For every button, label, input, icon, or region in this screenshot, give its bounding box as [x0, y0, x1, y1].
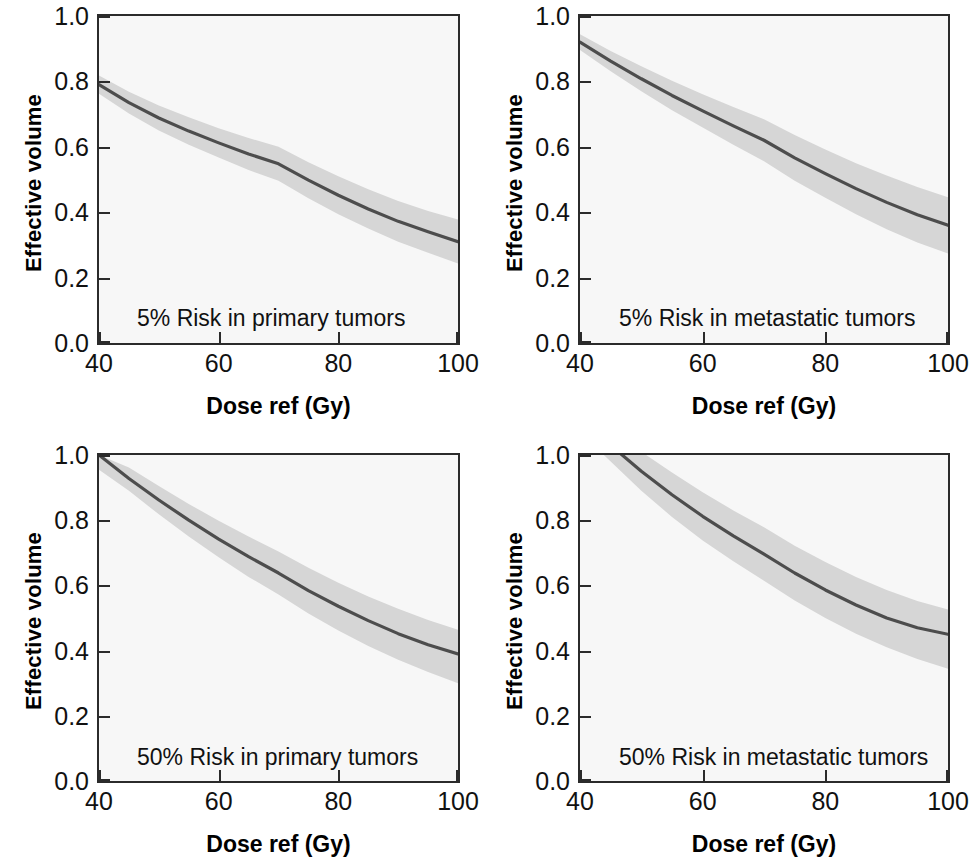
- y-tick-mark: [580, 16, 591, 18]
- x-axis-tick-label: 40: [64, 789, 134, 814]
- x-tick-mark: [456, 332, 458, 343]
- x-tick-mark: [946, 770, 948, 781]
- confidence-band: [99, 455, 458, 683]
- y-axis-tick-label: 1.0: [33, 443, 89, 468]
- x-axis-tick-label: 80: [303, 789, 373, 814]
- y-tick-mark: [99, 81, 110, 83]
- y-tick-mark: [99, 520, 110, 522]
- y-tick-mark: [580, 455, 591, 457]
- x-axis-title: Dose ref (Gy): [644, 393, 884, 420]
- x-axis-title: Dose ref (Gy): [159, 831, 399, 858]
- x-tick-mark: [456, 770, 458, 781]
- y-tick-mark: [580, 278, 591, 280]
- y-axis-tick-label: 0.8: [33, 69, 89, 94]
- x-axis-tick-label: 40: [64, 351, 134, 376]
- y-axis-tick-label: 1.0: [514, 443, 570, 468]
- x-tick-mark: [219, 770, 221, 781]
- confidence-band: [580, 34, 948, 253]
- x-tick-mark: [703, 332, 705, 343]
- y-tick-mark: [580, 716, 591, 718]
- y-axis-title: Effective volume: [21, 93, 47, 271]
- y-axis-tick-label: 0.8: [514, 69, 570, 94]
- panel-annotation: 50% Risk in metastatic tumors: [619, 744, 928, 771]
- x-tick-mark: [703, 770, 705, 781]
- y-axis-title: Effective volume: [502, 93, 528, 271]
- x-tick-mark: [946, 332, 948, 343]
- x-axis-tick-label: 100: [423, 351, 493, 376]
- y-tick-mark: [99, 455, 110, 457]
- x-tick-mark: [580, 770, 582, 781]
- plot-area-p2: 5% Risk in metastatic tumors: [578, 14, 950, 345]
- y-axis-tick-label: 1.0: [33, 4, 89, 29]
- x-axis-tick-label: 60: [668, 351, 738, 376]
- y-axis-tick-label: 0.8: [33, 508, 89, 533]
- x-axis-tick-label: 80: [790, 789, 860, 814]
- y-tick-mark: [580, 81, 591, 83]
- x-tick-mark: [338, 770, 340, 781]
- x-axis-tick-label: 60: [184, 351, 254, 376]
- y-axis-title: Effective volume: [21, 532, 47, 710]
- y-tick-mark: [99, 651, 110, 653]
- y-tick-mark: [99, 16, 110, 18]
- y-axis-tick-label: 1.0: [514, 4, 570, 29]
- y-tick-mark: [99, 716, 110, 718]
- y-tick-mark: [580, 520, 591, 522]
- y-axis-title: Effective volume: [502, 532, 528, 710]
- x-axis-tick-label: 80: [303, 351, 373, 376]
- plot-area-p4: 50% Risk in metastatic tumors: [578, 453, 950, 783]
- x-tick-mark: [99, 770, 101, 781]
- y-tick-mark: [580, 147, 591, 149]
- y-tick-mark: [580, 585, 591, 587]
- x-axis-tick-label: 100: [423, 789, 493, 814]
- x-axis-tick-label: 60: [184, 789, 254, 814]
- x-tick-mark: [99, 332, 101, 343]
- x-tick-mark: [825, 332, 827, 343]
- confidence-band: [99, 76, 458, 264]
- x-tick-mark: [338, 332, 340, 343]
- x-axis-tick-label: 80: [790, 351, 860, 376]
- x-axis-title: Dose ref (Gy): [159, 393, 399, 420]
- y-tick-mark: [580, 212, 591, 214]
- panel-annotation: 50% Risk in primary tumors: [137, 744, 418, 771]
- x-axis-title: Dose ref (Gy): [644, 831, 884, 858]
- x-axis-tick-label: 100: [913, 351, 973, 376]
- y-tick-mark: [99, 147, 110, 149]
- x-axis-tick-label: 100: [913, 789, 973, 814]
- y-tick-mark: [99, 585, 110, 587]
- x-tick-mark: [219, 332, 221, 343]
- x-axis-tick-label: 40: [545, 351, 615, 376]
- y-tick-mark: [99, 212, 110, 214]
- y-tick-mark: [99, 278, 110, 280]
- plot-area-p1: 5% Risk in primary tumors: [97, 14, 460, 345]
- confidence-band: [580, 455, 948, 669]
- x-axis-tick-label: 40: [545, 789, 615, 814]
- y-axis-tick-label: 0.8: [514, 508, 570, 533]
- plot-area-p3: 50% Risk in primary tumors: [97, 453, 460, 783]
- x-tick-mark: [580, 332, 582, 343]
- panel-annotation: 5% Risk in primary tumors: [137, 305, 405, 332]
- panel-annotation: 5% Risk in metastatic tumors: [619, 305, 916, 332]
- y-tick-mark: [580, 651, 591, 653]
- x-tick-mark: [825, 770, 827, 781]
- x-axis-tick-label: 60: [668, 789, 738, 814]
